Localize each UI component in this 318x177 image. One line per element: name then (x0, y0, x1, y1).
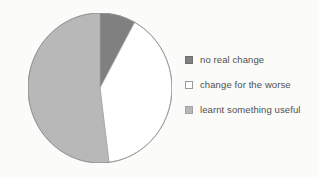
pie-slices (28, 13, 172, 163)
legend-swatch-icon (185, 56, 193, 64)
legend-item-learnt-something-useful[interactable]: learnt something useful (185, 97, 315, 122)
pie-chart-graphic (28, 13, 172, 163)
legend-item-label: change for the worse (200, 80, 291, 90)
legend-item-label: learnt something useful (200, 105, 301, 115)
legend-swatch-icon (185, 81, 193, 89)
pie-svg (28, 13, 172, 163)
legend-item-no-real-change[interactable]: no real change (185, 47, 315, 72)
pie-slice-learnt-something-useful[interactable] (28, 13, 109, 163)
legend-item-change-for-the-worse[interactable]: change for the worse (185, 72, 315, 97)
chart-legend: no real change change for the worse lear… (185, 47, 315, 122)
pie-chart-figure: no real change change for the worse lear… (0, 0, 318, 177)
legend-item-label: no real change (200, 55, 264, 65)
legend-swatch-icon (185, 106, 193, 114)
